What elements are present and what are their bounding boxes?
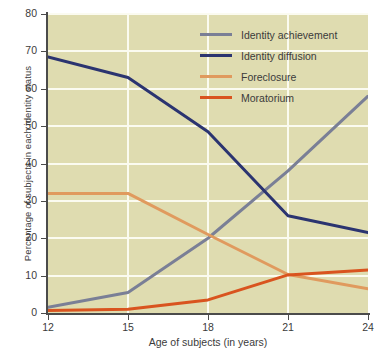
y-tick-mark — [41, 126, 48, 127]
y-tick-label: 10 — [0, 269, 37, 281]
series-line — [48, 96, 368, 307]
y-tick-mark — [41, 238, 48, 239]
y-tick-label: 80 — [0, 7, 37, 19]
legend-item: Identity diffusion — [200, 45, 375, 66]
legend-color-swatch — [200, 33, 232, 36]
legend-label: Moratorium — [241, 92, 294, 104]
y-tick-mark — [41, 313, 48, 314]
legend-color-swatch — [200, 75, 232, 78]
x-tick-label: 15 — [113, 321, 143, 333]
x-tick-mark — [368, 314, 369, 320]
y-tick-mark — [41, 276, 48, 277]
legend-label: Foreclosure — [241, 71, 296, 83]
y-tick-label: 0 — [0, 306, 37, 318]
y-tick-label: 60 — [0, 82, 37, 94]
legend-label: Identity achievement — [241, 29, 337, 41]
x-tick-label: 12 — [33, 321, 63, 333]
legend-color-swatch — [200, 96, 232, 99]
y-tick-mark — [41, 51, 48, 52]
y-tick-label: 20 — [0, 231, 37, 243]
chart-figure: Percentage of subjects in each identity … — [0, 0, 378, 353]
legend-item: Foreclosure — [200, 66, 375, 87]
x-tick-label: 24 — [353, 321, 378, 333]
chart-legend: Identity achievementIdentity diffusionFo… — [200, 24, 375, 108]
y-tick-label: 70 — [0, 44, 37, 56]
x-tick-mark — [128, 314, 129, 320]
y-tick-mark — [41, 89, 48, 90]
x-tick-label: 21 — [273, 321, 303, 333]
y-tick-mark — [41, 14, 48, 15]
series-line — [48, 270, 368, 310]
x-axis-title: Age of subjects (in years) — [48, 336, 368, 348]
y-tick-mark — [41, 201, 48, 202]
x-tick-label: 18 — [193, 321, 223, 333]
y-tick-label: 30 — [0, 194, 37, 206]
legend-item: Moratorium — [200, 87, 375, 108]
y-tick-label: 50 — [0, 119, 37, 131]
x-tick-mark — [288, 314, 289, 320]
x-tick-mark — [208, 314, 209, 320]
legend-label: Identity diffusion — [241, 50, 317, 62]
legend-color-swatch — [200, 54, 232, 57]
y-tick-label: 40 — [0, 157, 37, 169]
legend-item: Identity achievement — [200, 24, 375, 45]
x-tick-mark — [48, 314, 49, 320]
y-tick-mark — [41, 164, 48, 165]
